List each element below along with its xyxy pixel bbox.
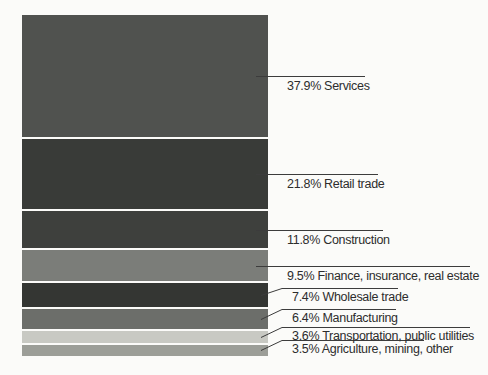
segment-label: 37.9% Services (287, 80, 370, 93)
segment-label: 3.6% Transportation, public utilities (292, 330, 474, 343)
bar-segment-wholesale-trade (22, 283, 268, 307)
segment-label: 6.4% Manufacturing (292, 312, 398, 325)
stacked-bar-column (22, 15, 268, 356)
bar-segment-finance-insurance-real-estate (22, 250, 268, 280)
bar-segment-transportation-public-utilities (22, 331, 268, 343)
segment-label: 21.8% Retail trade (287, 178, 384, 191)
bar-segment-manufacturing (22, 309, 268, 330)
bar-segment-services (22, 15, 268, 137)
segment-label: 9.5% Finance, insurance, real estate (287, 270, 479, 283)
segment-label: 11.8% Construction (287, 234, 390, 247)
bar-segment-construction (22, 211, 268, 249)
segment-label: 7.4% Wholesale trade (292, 291, 408, 304)
stacked-bar-chart: 37.9% Services21.8% Retail trade11.8% Co… (0, 0, 488, 375)
bar-segment-agriculture-mining-other (22, 345, 268, 356)
segment-label: 3.5% Agriculture, mining, other (292, 343, 453, 356)
bar-segment-retail-trade (22, 139, 268, 209)
